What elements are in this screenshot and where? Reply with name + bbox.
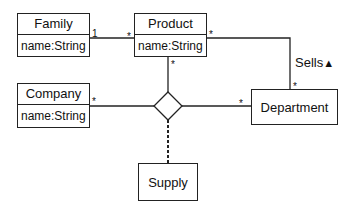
sells-association	[206, 38, 290, 89]
multiplicity-department-sells-star: *	[293, 82, 297, 92]
triangle-up-icon: ▲	[323, 57, 334, 69]
class-company-name: Company	[18, 84, 89, 105]
class-department-name: Department	[261, 100, 329, 115]
class-product[interactable]: Product name:String	[134, 13, 207, 57]
nary-association-diamond	[154, 92, 182, 120]
class-family[interactable]: Family name:String	[17, 13, 90, 57]
multiplicity-product-star-left: *	[127, 32, 131, 42]
class-company-attribute: name:String	[18, 105, 89, 127]
multiplicity-product-diamond-star: *	[171, 60, 175, 70]
multiplicity-department-diamond-star: *	[239, 99, 243, 109]
class-department[interactable]: Department	[251, 89, 338, 125]
multiplicity-company-diamond-star: *	[92, 97, 96, 107]
class-company[interactable]: Company name:String	[17, 83, 90, 128]
sells-association-label: Sells▲	[295, 56, 334, 70]
class-product-name: Product	[135, 14, 206, 35]
class-supply-name: Supply	[148, 175, 188, 190]
multiplicity-family-1: 1	[92, 29, 98, 39]
class-family-attribute: name:String	[18, 35, 89, 57]
class-supply[interactable]: Supply	[138, 163, 198, 201]
class-product-attribute: name:String	[135, 35, 206, 57]
multiplicity-product-sells-star: *	[209, 30, 213, 40]
class-family-name: Family	[18, 14, 89, 35]
sells-label-text: Sells	[295, 55, 323, 70]
